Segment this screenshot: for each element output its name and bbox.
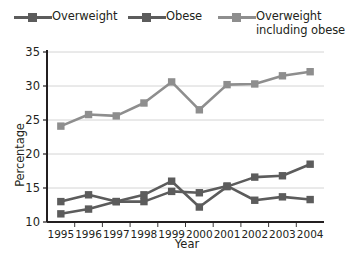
x-tick-label: 2000: [186, 228, 213, 240]
series-marker: [306, 161, 313, 168]
series-marker: [251, 80, 258, 87]
series-marker: [57, 198, 64, 205]
series-marker: [279, 72, 286, 79]
x-tick-label: 2001: [214, 228, 241, 240]
legend-swatch-overweight-including-obese: [218, 11, 256, 24]
legend-square-marker-icon: [232, 13, 241, 22]
legend-swatch-obese: [128, 11, 166, 24]
series-marker: [279, 172, 286, 179]
series-marker: [113, 198, 120, 205]
series-marker: [85, 191, 92, 198]
series-marker: [306, 196, 313, 203]
chart-legend: Overweight Obese Overweight including ob…: [0, 8, 331, 48]
legend-square-marker-icon: [28, 13, 37, 22]
series-marker: [140, 99, 147, 106]
x-tick-label: 1997: [103, 228, 130, 240]
y-tick-label: 15: [25, 181, 40, 195]
series-marker: [57, 210, 64, 217]
chart-canvas: 101520253035 199519961997199819992000200…: [0, 44, 331, 244]
y-tick-label: 10: [25, 215, 40, 229]
series-marker: [168, 78, 175, 85]
legend-item-overweight: Overweight: [14, 10, 117, 24]
x-tick-label: 2004: [297, 228, 324, 240]
series-marker: [140, 198, 147, 205]
x-tick-label: 2003: [269, 228, 296, 240]
series-line: [61, 164, 310, 214]
x-tick-label: 1998: [131, 228, 158, 240]
series-marker: [196, 203, 203, 210]
plot-area: Percentage Year 101520253035 19951996199…: [0, 44, 331, 257]
legend-item-obese: Obese: [128, 10, 202, 24]
x-axis-ticks: 1995199619971998199920002001200220032004: [47, 222, 323, 240]
y-axis-ticks: 101520253035: [25, 45, 47, 229]
y-tick-label: 30: [25, 79, 40, 93]
legend-swatch-overweight: [14, 11, 52, 24]
legend-label-line-1: Overweight: [256, 9, 321, 23]
x-tick-label: 2002: [241, 228, 268, 240]
data-series: [57, 68, 314, 130]
x-tick-label: 1996: [75, 228, 102, 240]
legend-label-obese: Obese: [166, 10, 202, 24]
series-marker: [251, 197, 258, 204]
series-marker: [196, 106, 203, 113]
series-marker: [223, 81, 230, 88]
series-line: [61, 72, 310, 126]
y-tick-label: 20: [25, 147, 40, 161]
series-marker: [168, 188, 175, 195]
series-marker: [57, 122, 64, 129]
legend-label-line-2: including obese: [256, 23, 345, 37]
legend-item-overweight-including-obese: Overweight including obese: [218, 10, 345, 37]
legend-label-overweight-including-obese: Overweight including obese: [256, 10, 345, 37]
series-marker: [85, 111, 92, 118]
series-marker: [85, 205, 92, 212]
series-marker: [196, 189, 203, 196]
series-marker: [306, 68, 313, 75]
series-marker: [251, 173, 258, 180]
x-tick-label: 1995: [47, 228, 74, 240]
series-marker: [140, 191, 147, 198]
data-series-layer: [57, 68, 314, 218]
legend-label-overweight: Overweight: [52, 10, 117, 24]
legend-square-marker-icon: [142, 13, 151, 22]
series-marker: [223, 183, 230, 190]
series-marker: [113, 112, 120, 119]
series-marker: [168, 178, 175, 185]
x-tick-label: 1999: [158, 228, 185, 240]
series-marker: [279, 193, 286, 200]
data-series: [57, 161, 314, 218]
y-tick-label: 35: [25, 45, 40, 59]
y-tick-label: 25: [25, 113, 40, 127]
